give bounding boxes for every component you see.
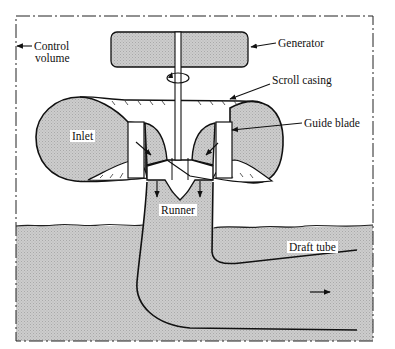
- guide-vane-left-channel: [128, 122, 144, 178]
- leader-scroll-casing: [230, 84, 270, 99]
- label-generator: Generator: [278, 37, 324, 49]
- guide-blade-left: [145, 123, 167, 165]
- tailwater-region: [16, 225, 146, 341]
- shaft: [175, 32, 181, 160]
- label-runner: Runner: [159, 204, 197, 216]
- guide-vane-right-channel: [216, 122, 232, 178]
- guide-blade-right: [192, 123, 215, 165]
- label-inlet: Inlet: [70, 130, 95, 142]
- label-scroll-casing: Scroll casing: [272, 74, 332, 86]
- label-guide-blade: Guide blade: [304, 117, 360, 129]
- leader-generator: [251, 43, 276, 47]
- label-draft-tube: Draft tube: [287, 241, 338, 253]
- label-control-volume: Control volume: [34, 40, 70, 64]
